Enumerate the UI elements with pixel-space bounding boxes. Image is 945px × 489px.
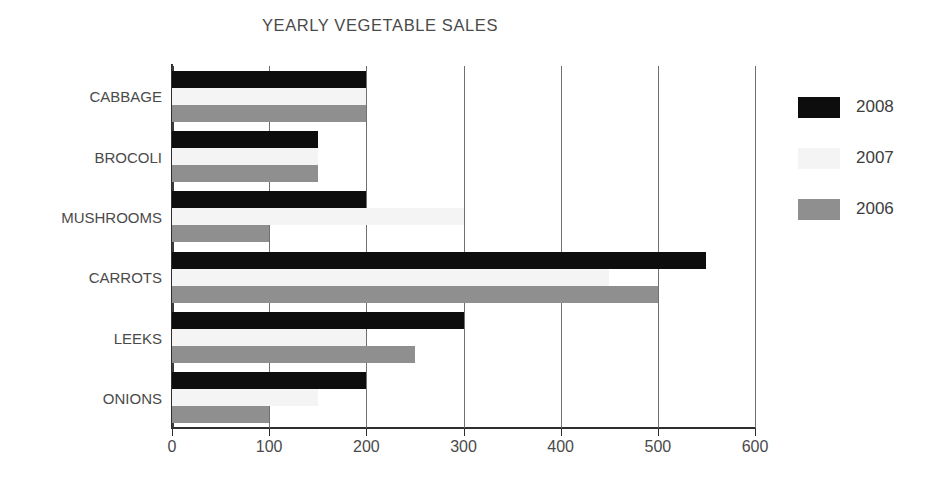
bar-mushrooms-2007[interactable] xyxy=(172,208,464,225)
bar-group xyxy=(172,187,755,247)
bar-mushrooms-2008[interactable] xyxy=(172,191,366,208)
bar-cabbage-2008[interactable] xyxy=(172,71,366,88)
x-tick-label-100: 100 xyxy=(256,438,283,456)
chart-figure: YEARLY VEGETABLE SALES CABBAGEBROCOLIMUS… xyxy=(0,0,945,489)
legend-label-2007: 2007 xyxy=(856,148,894,168)
bar-brocoli-2007[interactable] xyxy=(172,148,318,165)
legend-swatch-2007 xyxy=(798,148,840,169)
x-tick-mark-600 xyxy=(755,429,756,436)
bar-group xyxy=(172,368,755,428)
bar-leeks-2007[interactable] xyxy=(172,329,366,346)
y-axis-label-onions: ONIONS xyxy=(2,389,162,406)
x-tick-label-600: 600 xyxy=(742,438,769,456)
bar-cabbage-2007[interactable] xyxy=(172,88,366,105)
y-axis-label-carrots: CARROTS xyxy=(2,269,162,286)
x-tick-label-500: 500 xyxy=(644,438,671,456)
gridline-600 xyxy=(755,66,756,428)
bar-brocoli-2006[interactable] xyxy=(172,165,318,182)
chart-legend: 200820072006 xyxy=(798,88,938,241)
x-tick-mark-100 xyxy=(269,429,270,436)
legend-item-2008[interactable]: 2008 xyxy=(798,88,938,126)
x-tick-mark-0 xyxy=(172,429,173,436)
legend-label-2006: 2006 xyxy=(856,199,894,219)
bar-onions-2008[interactable] xyxy=(172,372,366,389)
legend-item-2007[interactable]: 2007 xyxy=(798,139,938,177)
bar-group xyxy=(172,66,755,126)
x-tick-label-400: 400 xyxy=(547,438,574,456)
bar-onions-2006[interactable] xyxy=(172,406,269,423)
y-axis-category-labels: CABBAGEBROCOLIMUSHROOMSCARROTSLEEKSONION… xyxy=(0,0,162,489)
bar-group xyxy=(172,307,755,367)
plot-area xyxy=(172,66,755,428)
x-tick-mark-200 xyxy=(366,429,367,436)
bar-carrots-2007[interactable] xyxy=(172,269,609,286)
legend-item-2006[interactable]: 2006 xyxy=(798,190,938,228)
x-tick-mark-500 xyxy=(658,429,659,436)
bar-group xyxy=(172,126,755,186)
bar-group xyxy=(172,247,755,307)
y-axis-label-cabbage: CABBAGE xyxy=(2,88,162,105)
bar-onions-2007[interactable] xyxy=(172,389,318,406)
bar-cabbage-2006[interactable] xyxy=(172,105,366,122)
y-axis-label-brocoli: BROCOLI xyxy=(2,148,162,165)
legend-label-2008: 2008 xyxy=(856,97,894,117)
bar-leeks-2008[interactable] xyxy=(172,312,464,329)
bar-carrots-2006[interactable] xyxy=(172,286,658,303)
legend-swatch-2008 xyxy=(798,97,840,118)
x-tick-label-300: 300 xyxy=(450,438,477,456)
x-tick-mark-300 xyxy=(464,429,465,436)
bar-brocoli-2008[interactable] xyxy=(172,131,318,148)
x-tick-label-200: 200 xyxy=(353,438,380,456)
legend-swatch-2006 xyxy=(798,199,840,220)
y-axis-label-leeks: LEEKS xyxy=(2,329,162,346)
y-axis-label-mushrooms: MUSHROOMS xyxy=(2,208,162,225)
bar-carrots-2008[interactable] xyxy=(172,252,706,269)
bar-leeks-2006[interactable] xyxy=(172,346,415,363)
bar-mushrooms-2006[interactable] xyxy=(172,225,269,242)
x-tick-label-0: 0 xyxy=(168,438,177,456)
x-tick-mark-400 xyxy=(561,429,562,436)
